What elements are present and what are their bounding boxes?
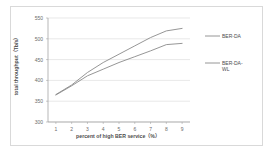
series-line-1 bbox=[56, 43, 182, 95]
legend-item-label: BER-DA- WL bbox=[222, 60, 243, 72]
y-tick-label: 450 bbox=[27, 57, 43, 63]
y-tick-label: 350 bbox=[27, 98, 43, 104]
x-tick-label: 5 bbox=[115, 126, 123, 132]
x-tick-label: 1 bbox=[52, 126, 60, 132]
y-axis-title: total throughput（Tb/s） bbox=[13, 33, 19, 97]
data-series-group bbox=[56, 28, 182, 95]
x-axis-title: percent of high BER service（%） bbox=[48, 133, 188, 139]
x-tick-label: 3 bbox=[83, 126, 91, 132]
gridlines-group bbox=[46, 18, 190, 124]
y-tick-label: 300 bbox=[27, 119, 43, 125]
legend-swatch-group bbox=[205, 36, 220, 63]
y-tick-label: 500 bbox=[27, 36, 43, 42]
axis-lines-group bbox=[48, 18, 190, 122]
series-line-0 bbox=[56, 28, 182, 94]
x-tick-label: 9 bbox=[178, 126, 186, 132]
x-tick-label: 8 bbox=[162, 126, 170, 132]
chart-figure: total throughput（Tb/s） percent of high B… bbox=[0, 0, 271, 158]
legend-item-label: BER-DA bbox=[222, 33, 241, 39]
y-tick-label: 400 bbox=[27, 77, 43, 83]
x-tick-label: 7 bbox=[147, 126, 155, 132]
x-tick-label: 2 bbox=[68, 126, 76, 132]
x-tick-label: 6 bbox=[131, 126, 139, 132]
y-tick-label: 550 bbox=[27, 15, 43, 21]
x-tick-label: 4 bbox=[99, 126, 107, 132]
